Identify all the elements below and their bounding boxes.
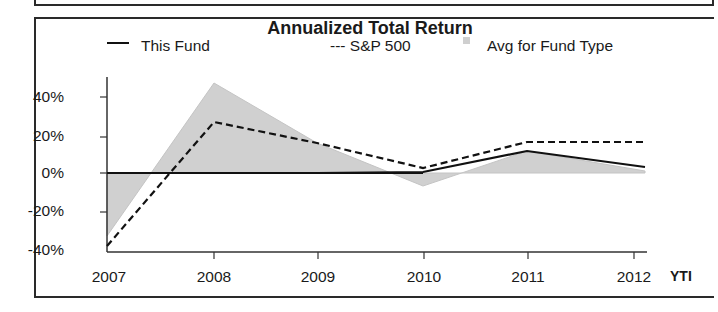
x-tick-label: 2010 (394, 268, 454, 286)
avg-fund-type-area (107, 83, 645, 236)
y-tick-label: 0% (4, 164, 64, 182)
y-tick-label: 20% (4, 127, 64, 145)
y-tick-label: 40% (4, 88, 64, 106)
y-tick-label: -40% (4, 241, 64, 259)
y-tick-label: -20% (4, 202, 64, 220)
x-tick-label: 2012 (604, 268, 664, 286)
x-tick-label: 2007 (79, 268, 139, 286)
ytd-label: YTI (670, 268, 692, 284)
x-tick-label: 2009 (288, 268, 348, 286)
x-tick-label: 2008 (184, 268, 244, 286)
x-tick-label: 2011 (498, 268, 558, 286)
